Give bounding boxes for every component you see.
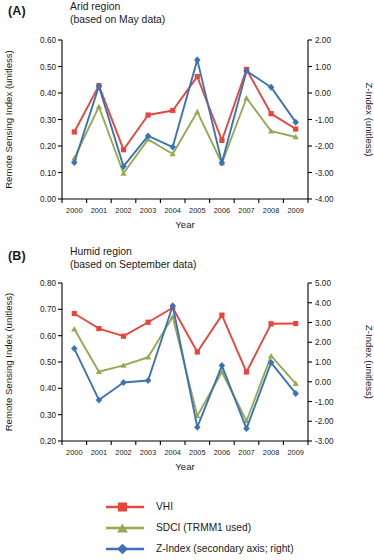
panel-a-chart: 0.000.100.200.300.400.500.60-4.00-3.00-2… bbox=[0, 30, 374, 245]
y-tick-label-right: -1.00 bbox=[315, 116, 334, 125]
data-point-triangle bbox=[194, 109, 200, 114]
x-tick-label: 2001 bbox=[91, 206, 107, 215]
y-tick-label-left: 0.50 bbox=[40, 63, 56, 72]
y-tick-label-right: 0.00 bbox=[315, 89, 331, 98]
data-point-square bbox=[269, 321, 274, 326]
y-tick-label-left: 0.70 bbox=[40, 305, 56, 314]
data-point-square bbox=[244, 369, 249, 374]
x-tick-label: 2003 bbox=[140, 448, 156, 457]
data-point-square bbox=[121, 334, 126, 339]
legend-item-zindex: Z-Index (secondary axis; right) bbox=[0, 538, 374, 559]
x-tick-label: 2000 bbox=[66, 448, 82, 457]
y-tick-label-right: 0.00 bbox=[315, 378, 331, 387]
panel-a-title: Arid region (based on May data) bbox=[70, 0, 165, 26]
data-point-square bbox=[121, 147, 126, 152]
x-tick-label: 2009 bbox=[287, 206, 303, 215]
data-point-square bbox=[219, 313, 224, 318]
x-tick-label: 2008 bbox=[263, 206, 279, 215]
y-tick-label-right: 2.00 bbox=[315, 338, 331, 347]
panel-b-title-line2: (based on September data) bbox=[70, 258, 197, 271]
y-tick-label-right: 4.00 bbox=[315, 299, 331, 308]
y-tick-label-right: -2.00 bbox=[315, 142, 334, 151]
y-tick-label-left: 0.20 bbox=[40, 142, 56, 151]
legend-label-zindex: Z-Index (secondary axis; right) bbox=[156, 543, 294, 554]
panel-a: (A) Arid region (based on May data) 0.00… bbox=[0, 0, 374, 245]
panel-b-title: Humid region (based on September data) bbox=[70, 245, 197, 271]
y-tick-label-right: 3.00 bbox=[315, 319, 331, 328]
y-tick-label-right: 5.00 bbox=[315, 279, 331, 288]
y-tick-label-left: 0.40 bbox=[40, 384, 56, 393]
y-axis-title-left: Remote Sensing Index (unitless) bbox=[3, 293, 14, 432]
legend-marker-diamond-icon bbox=[104, 543, 146, 555]
data-point-square bbox=[146, 112, 151, 117]
panel-a-letter: (A) bbox=[8, 4, 26, 18]
y-tick-label-right: 1.00 bbox=[315, 63, 331, 72]
y-tick-label-left: 0.30 bbox=[40, 411, 56, 420]
x-tick-label: 2002 bbox=[115, 206, 131, 215]
x-tick-label: 2009 bbox=[287, 448, 303, 457]
x-axis-title: Year bbox=[175, 219, 195, 230]
panel-b-title-line1: Humid region bbox=[70, 246, 132, 257]
data-point-square bbox=[195, 349, 200, 354]
y-tick-label-right: -3.00 bbox=[315, 437, 334, 446]
series-line bbox=[74, 60, 295, 167]
data-point-diamond bbox=[194, 56, 201, 63]
panel-b-header: (B) Humid region (based on September dat… bbox=[0, 245, 374, 275]
y-tick-label-right: -4.00 bbox=[315, 195, 334, 204]
x-tick-label: 2005 bbox=[189, 206, 205, 215]
x-tick-label: 2002 bbox=[115, 448, 131, 457]
data-point-triangle bbox=[71, 326, 77, 331]
data-point-diamond bbox=[194, 424, 201, 431]
legend-marker-triangle-icon bbox=[104, 522, 146, 534]
x-tick-label: 2004 bbox=[164, 448, 180, 457]
x-tick-label: 2005 bbox=[189, 448, 205, 457]
chart-legend: VHI SDCI (TRMM1 used) Z-Index (secondary… bbox=[0, 496, 374, 559]
panel-b-chart: 0.200.300.400.500.600.700.80-3.00-2.00-1… bbox=[0, 275, 374, 485]
y-tick-label-left: 0.10 bbox=[40, 169, 56, 178]
y-tick-label-right: -2.00 bbox=[315, 417, 334, 426]
legend-marker-square-icon bbox=[104, 501, 146, 513]
x-tick-label: 2006 bbox=[214, 448, 230, 457]
data-point-square bbox=[195, 74, 200, 79]
data-point-diamond bbox=[71, 345, 78, 352]
y-tick-label-left: 0.80 bbox=[40, 279, 56, 288]
legend-label-sdci: SDCI (TRMM1 used) bbox=[156, 522, 251, 533]
data-point-triangle bbox=[243, 95, 249, 100]
data-point-diamond bbox=[219, 362, 226, 369]
panel-a-header: (A) Arid region (based on May data) bbox=[0, 0, 374, 30]
data-point-triangle bbox=[268, 353, 274, 358]
y-tick-label-left: 0.00 bbox=[40, 195, 56, 204]
data-point-square bbox=[293, 126, 298, 131]
panel-b: (B) Humid region (based on September dat… bbox=[0, 245, 374, 485]
x-tick-label: 2007 bbox=[238, 448, 254, 457]
x-tick-label: 2007 bbox=[238, 206, 254, 215]
series-diamond bbox=[71, 302, 299, 432]
x-tick-label: 2001 bbox=[91, 448, 107, 457]
x-tick-label: 2008 bbox=[263, 448, 279, 457]
panel-a-title-line1: Arid region bbox=[70, 1, 120, 12]
data-point-square bbox=[96, 326, 101, 331]
series-diamond bbox=[71, 56, 299, 170]
y-tick-label-left: 0.40 bbox=[40, 89, 56, 98]
data-point-diamond bbox=[243, 425, 250, 432]
x-tick-label: 2000 bbox=[66, 206, 82, 215]
panel-b-plot: 0.200.300.400.500.600.700.80-3.00-2.00-1… bbox=[0, 275, 374, 485]
y-axis-title-right: Z-Index (unitless) bbox=[364, 325, 374, 399]
data-point-square bbox=[72, 311, 77, 316]
data-point-square bbox=[72, 129, 77, 134]
y-tick-label-right: 2.00 bbox=[315, 36, 331, 45]
y-tick-label-left: 0.60 bbox=[40, 332, 56, 341]
y-tick-label-left: 0.30 bbox=[40, 116, 56, 125]
data-point-diamond bbox=[145, 377, 152, 384]
y-tick-label-left: 0.50 bbox=[40, 358, 56, 367]
series-line bbox=[74, 306, 295, 429]
y-tick-label-right: 1.00 bbox=[315, 358, 331, 367]
panel-a-plot: 0.000.100.200.300.400.500.60-4.00-3.00-2… bbox=[0, 30, 374, 245]
y-axis-title-left: Remote Sensing Index (unitless) bbox=[3, 50, 14, 189]
y-axis-title-right: Z-Index (unitless) bbox=[364, 82, 374, 156]
y-tick-label-right: -1.00 bbox=[315, 398, 334, 407]
legend-item-sdci: SDCI (TRMM1 used) bbox=[0, 517, 374, 538]
data-point-square bbox=[146, 320, 151, 325]
figure-root: (A) Arid region (based on May data) 0.00… bbox=[0, 0, 374, 560]
panel-b-letter: (B) bbox=[8, 249, 26, 263]
